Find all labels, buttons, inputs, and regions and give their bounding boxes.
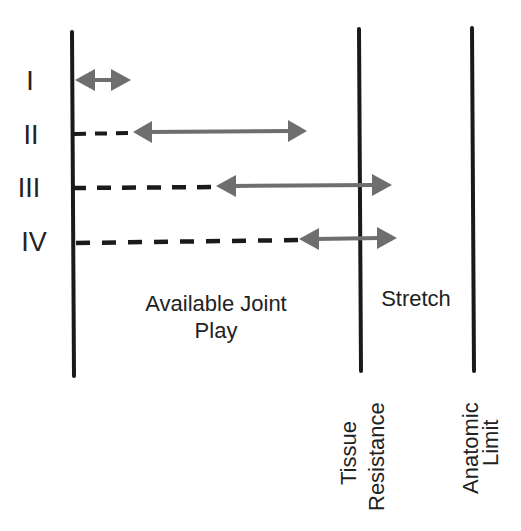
grade-1-arrow bbox=[75, 69, 131, 91]
tissue-resistance-line bbox=[359, 29, 361, 371]
anatomic-limit-label-line2: Limit bbox=[478, 420, 503, 466]
starting-position-line bbox=[72, 32, 74, 376]
anatomic-limit-line bbox=[472, 28, 474, 371]
grade-4-arrow bbox=[76, 227, 397, 250]
stretch-label: Stretch bbox=[381, 286, 451, 311]
joint-mobilization-grades-diagram: I II III IV Available Joint Play Stretch… bbox=[0, 0, 521, 531]
grade-1-label: I bbox=[26, 66, 34, 96]
grade-2-label: II bbox=[23, 120, 38, 150]
grade-3-label: III bbox=[18, 173, 41, 203]
grade-3-arrow bbox=[72, 174, 392, 197]
available-joint-play-label-line2: Play bbox=[195, 318, 238, 343]
tissue-resistance-label-line1: Tissue bbox=[336, 421, 361, 485]
grade-4-label: IV bbox=[21, 227, 47, 257]
grade-2-arrow bbox=[74, 120, 307, 143]
tissue-resistance-label-line2: Resistance bbox=[364, 402, 389, 511]
available-joint-play-label-line1: Available Joint bbox=[145, 291, 286, 316]
